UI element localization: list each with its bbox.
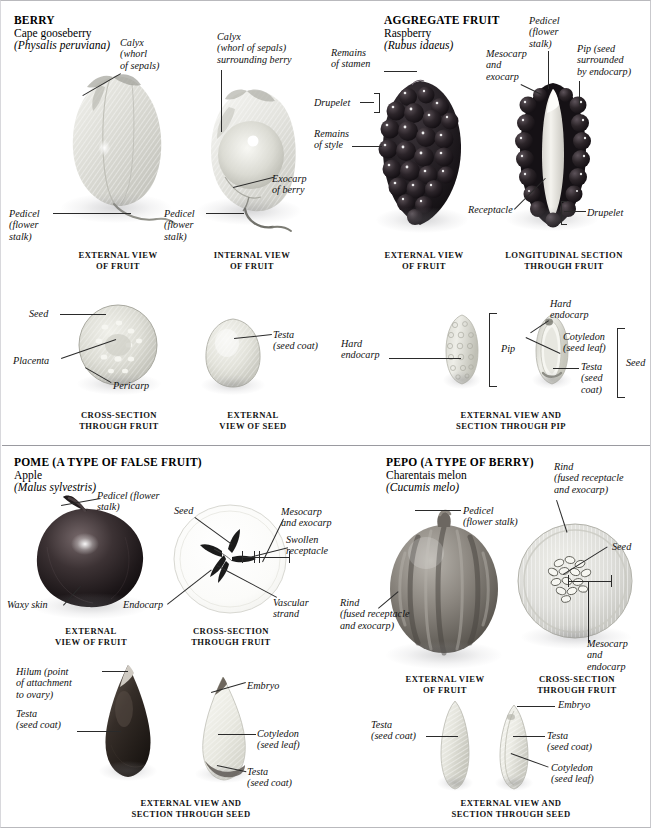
bracket-pip bbox=[489, 313, 497, 387]
tick-receptacle-right bbox=[289, 551, 290, 563]
section-common-name-melon: Charentais melon bbox=[386, 469, 467, 482]
specimen-raspberry-external bbox=[368, 69, 478, 239]
tick-receptacle-left bbox=[254, 551, 255, 563]
specimen-gooseberry-seed bbox=[197, 313, 269, 395]
caption-cross-section-through-fruit-melon: CROSS-SECTION THROUGH FRUIT bbox=[517, 674, 637, 696]
tick-mesocarp-endocarp-left bbox=[568, 575, 569, 587]
tick-mesocarp-endocarp-right bbox=[611, 575, 612, 587]
leader-line-hilum bbox=[102, 671, 128, 672]
specimen-apple-seed-section bbox=[193, 673, 255, 785]
caption-external-view-and-section-through-seed-apple: EXTERNAL VIEW AND SECTION THROUGH SEED bbox=[91, 798, 291, 820]
leader-line-embryo-melon bbox=[517, 706, 555, 707]
label-rind-fused-receptacle-external: Rind (fused receptacle and exocarp) bbox=[340, 597, 410, 631]
label-testa-seed-coat-gooseberry: Testa (seed coat) bbox=[273, 329, 318, 352]
figure-page: BERRY Cape gooseberry (Physalis peruvian… bbox=[0, 0, 651, 828]
leader-line-pedicel-melon bbox=[415, 510, 461, 511]
label-testa-seed-coat-melon-external: Testa (seed coat) bbox=[371, 719, 416, 742]
label-pedicel-flower-stalk-melon: Pedicel (flower stalk) bbox=[463, 505, 518, 528]
label-cotyledon-seed-leaf-apple: Cotyledon (seed leaf) bbox=[257, 728, 300, 751]
leader-line-seed-gooseberry bbox=[60, 314, 106, 315]
label-embryo-apple: Embryo bbox=[247, 680, 279, 691]
leader-line-hard-endocarp-pip-external bbox=[389, 358, 461, 359]
section-divider bbox=[2, 445, 651, 446]
label-drupelet-external: Drupelet bbox=[314, 97, 350, 108]
label-receptacle: Receptacle bbox=[468, 204, 513, 215]
label-waxy-skin: Waxy skin bbox=[7, 599, 48, 610]
label-seed-gooseberry: Seed bbox=[29, 308, 48, 319]
label-mesocarp-and-exocarp-raspberry: Mesocarp and exocarp bbox=[486, 48, 527, 82]
leader-line-drupelet-external bbox=[360, 102, 374, 103]
leader-line-testa-pip bbox=[553, 368, 579, 369]
label-pedicel-flower-stalk-berry-internal: Pedicel (flower stalk) bbox=[164, 208, 195, 242]
label-mesocarp-and-exocarp-apple: Mesocarp and exocarp bbox=[281, 506, 332, 529]
label-pip: Pip bbox=[501, 343, 515, 354]
caption-internal-view-of-fruit-berry: INTERNAL VIEW OF FRUIT bbox=[191, 250, 313, 272]
specimen-apple-seed-external bbox=[97, 661, 159, 783]
label-vascular-strand: Vascular strand bbox=[273, 597, 309, 620]
section-common-name-apple: Apple bbox=[14, 469, 42, 482]
label-cotyledon-seed-leaf-pip: Cotyledon (seed leaf) bbox=[563, 331, 606, 354]
label-calyx-surrounding-berry: Calyx (whorl of sepals) surrounding berr… bbox=[217, 31, 292, 65]
section-common-name-berry: Cape gooseberry bbox=[14, 27, 92, 40]
measure-bar-mesocarp-endocarp bbox=[568, 581, 612, 582]
caption-cross-section-through-fruit-berry: CROSS-SECTION THROUGH FRUIT bbox=[63, 410, 175, 432]
leader-line-testa-melon-external bbox=[426, 736, 458, 737]
label-rind-fused-receptacle-cross-section: Rind (fused receptacle and exocarp) bbox=[554, 461, 624, 495]
caption-external-view-of-fruit-melon: EXTERNAL VIEW OF FRUIT bbox=[383, 674, 507, 696]
specimen-pip-external bbox=[441, 311, 483, 389]
specimen-melon-seed-external bbox=[435, 697, 475, 793]
section-heading-aggregate-fruit: AGGREGATE FRUIT bbox=[384, 14, 500, 27]
label-testa-seed-coat-apple-external: Testa (seed coat) bbox=[16, 708, 61, 731]
specimen-cape-gooseberry-external bbox=[53, 61, 183, 231]
caption-external-view-and-section-through-pip: EXTERNAL VIEW AND SECTION THROUGH PIP bbox=[423, 410, 599, 432]
section-latin-name-melon: (Cucumis melo) bbox=[386, 481, 459, 494]
label-drupelet-longitudinal: Drupelet bbox=[587, 207, 623, 218]
label-pedicel-flower-stalk-apple: Pedicel (flower stalk) bbox=[97, 490, 160, 513]
label-seed-melon: Seed bbox=[612, 541, 631, 552]
label-hard-endocarp-pip-section: Hard endocarp bbox=[550, 298, 588, 321]
label-exocarp-of-berry: Exocarp of berry bbox=[272, 173, 307, 196]
caption-cross-section-through-fruit-apple: CROSS-SECTION THROUGH FRUIT bbox=[171, 626, 291, 648]
label-cotyledon-seed-leaf-melon: Cotyledon (seed leaf) bbox=[551, 762, 594, 785]
label-testa-seed-coat-melon-section: Testa (seed coat) bbox=[547, 730, 592, 753]
caption-external-view-and-section-through-seed-melon: EXTERNAL VIEW AND SECTION THROUGH SEED bbox=[411, 798, 611, 820]
leader-line-testa-melon-section bbox=[513, 736, 545, 737]
label-embryo-melon: Embryo bbox=[558, 699, 590, 710]
label-placenta: Placenta bbox=[13, 355, 49, 366]
caption-external-view-of-fruit-berry: EXTERNAL VIEW OF FRUIT bbox=[53, 250, 183, 272]
leader-line-testa-apple-external bbox=[77, 731, 121, 732]
label-pericarp: Pericarp bbox=[113, 380, 149, 391]
section-latin-name-berry: (Physalis peruviana) bbox=[14, 39, 110, 52]
section-heading-pome: POME (A TYPE OF FALSE FRUIT) bbox=[14, 456, 202, 469]
caption-longitudinal-section-through-fruit: LONGITUDINAL SECTION THROUGH FRUIT bbox=[493, 250, 635, 272]
label-testa-seed-coat-apple-section: Testa (seed coat) bbox=[247, 766, 292, 789]
label-seed-apple: Seed bbox=[174, 505, 193, 516]
label-remains-of-stamen: Remains of stamen bbox=[331, 47, 370, 70]
label-remains-of-style: Remains of style bbox=[314, 128, 349, 151]
specimen-melon-seed-section bbox=[493, 701, 535, 793]
leader-line-calyx-internal bbox=[221, 70, 222, 132]
leader-line-cotyledon-apple bbox=[218, 734, 256, 735]
leader-line-pip-raspberry bbox=[579, 81, 580, 105]
caption-external-view-of-seed-berry: EXTERNAL VIEW OF SEED bbox=[199, 410, 307, 432]
label-pip-seed-surrounded-by-endocarp: Pip (seed surrounded by endocarp) bbox=[577, 43, 631, 77]
leader-line-drupelet-longitudinal-a bbox=[564, 211, 586, 212]
bracket-drupelet-external bbox=[374, 93, 380, 113]
leader-line-pedicel-raspberry bbox=[548, 51, 549, 89]
label-mesocarp-and-endocarp: Mesocarp and endocarp bbox=[587, 638, 628, 672]
label-endocarp: Endocarp bbox=[123, 599, 163, 610]
specimen-cape-gooseberry-internal bbox=[191, 79, 311, 234]
section-heading-berry: BERRY bbox=[14, 14, 55, 27]
leader-line-remains-of-stamen bbox=[384, 71, 417, 72]
measure-bar-receptacle bbox=[242, 557, 289, 558]
caption-external-view-of-fruit-apple: EXTERNAL VIEW OF FRUIT bbox=[23, 626, 159, 648]
section-latin-name-raspberry: (Rubus idaeus) bbox=[384, 39, 453, 52]
leader-line-mesocarp-endocarp-melon bbox=[588, 581, 589, 643]
tick-receptacle-mid bbox=[259, 551, 260, 563]
label-hilum-point-of-attachment: Hilum (point of attachment to ovary) bbox=[16, 666, 72, 700]
label-calyx-whorl-of-sepals: Calyx (whorl of sepals) bbox=[120, 37, 159, 71]
label-hard-endocarp-pip-external: Hard endocarp bbox=[341, 338, 379, 361]
caption-external-view-of-fruit-raspberry: EXTERNAL VIEW OF FRUIT bbox=[365, 250, 483, 272]
label-pedicel-flower-stalk-berry-external: Pedicel (flower stalk) bbox=[9, 208, 40, 242]
section-common-name-raspberry: Raspberry bbox=[384, 27, 431, 40]
